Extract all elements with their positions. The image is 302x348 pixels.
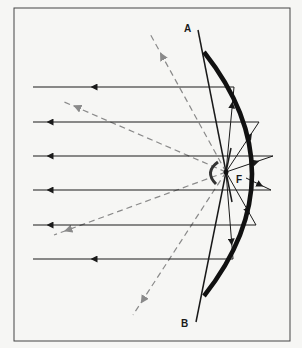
label-focus: F	[236, 174, 242, 185]
unreflected-rays	[54, 32, 226, 315]
reflected-parallel-rays	[33, 87, 273, 259]
label-a: A	[184, 23, 191, 34]
focus-ray-6	[226, 172, 233, 259]
focus-ray-2	[226, 122, 259, 172]
dashed-ray-left-upper-arrow	[77, 107, 95, 115]
label-b: B	[181, 318, 188, 329]
focus-ray-6-arrow	[231, 228, 232, 242]
parabolic-reflector-diagram: A B F	[0, 0, 302, 348]
dashed-ray-upper-arrow	[162, 56, 175, 80]
incident-rays-from-focus	[226, 87, 273, 259]
frame-border	[14, 8, 290, 341]
line-a	[198, 30, 226, 172]
dashed-ray-upper	[149, 32, 226, 172]
dashed-ray-lower-arrow	[143, 281, 155, 300]
line-b	[196, 172, 226, 322]
focus-point	[224, 170, 229, 175]
